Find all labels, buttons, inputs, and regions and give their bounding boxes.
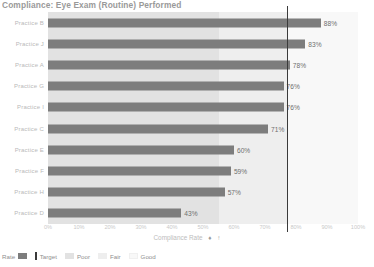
bar[interactable]: [48, 124, 268, 133]
bar-value-label: 88%: [321, 19, 337, 26]
bar[interactable]: [48, 18, 321, 27]
bar-value-label: 78%: [290, 61, 306, 68]
bar-row[interactable]: Practice I76%: [48, 97, 358, 118]
y-axis-label: Practice B: [15, 20, 44, 26]
legend-item-target[interactable]: Target: [35, 252, 57, 260]
bar[interactable]: [48, 188, 225, 197]
legend-swatch-rate: [18, 253, 27, 259]
y-axis-label: Practice G: [14, 83, 44, 89]
x-axis-title: Compliance Rate ♦ ↑: [0, 234, 374, 241]
bar[interactable]: [48, 82, 284, 91]
filter-icon[interactable]: ↑: [217, 234, 220, 241]
bar[interactable]: [48, 145, 234, 154]
bar-value-label: 71%: [268, 125, 284, 132]
y-axis-label: Practice F: [15, 168, 44, 174]
bar-value-label: 83%: [305, 40, 321, 47]
bar-row[interactable]: Practice G76%: [48, 76, 358, 97]
bar[interactable]: [48, 60, 290, 69]
target-reference-line[interactable]: [287, 6, 288, 232]
bar-value-label: 59%: [231, 167, 247, 174]
x-axis-tick: 100%: [351, 224, 365, 230]
chart-legend: RateTargetPoorFairGood: [2, 252, 160, 260]
bar[interactable]: [48, 209, 181, 218]
sort-icon[interactable]: ♦: [208, 234, 211, 241]
chart-container: Compliance: Eye Exam (Routine) Performed…: [0, 0, 374, 267]
bar-row[interactable]: Practice F59%: [48, 160, 358, 181]
legend-item-rate[interactable]: Rate: [2, 253, 27, 260]
y-axis-label: Practice J: [16, 41, 44, 47]
y-axis-label: Practice D: [14, 210, 44, 216]
y-axis-label: Practice C: [14, 126, 44, 132]
y-axis-label: Practice I: [17, 104, 44, 110]
x-axis-tick: 60%: [228, 224, 239, 230]
chart-title: Compliance: Eye Exam (Routine) Performed: [2, 0, 181, 10]
x-axis-tick: 70%: [259, 224, 270, 230]
bar-value-label: 60%: [234, 146, 250, 153]
plot-area: Practice B88%Practice J83%Practice A78%P…: [48, 12, 358, 224]
x-axis-tick: 90%: [321, 224, 332, 230]
bar-row[interactable]: Practice J83%: [48, 33, 358, 54]
legend-swatch-target: [35, 252, 37, 260]
x-axis-tick: 20%: [104, 224, 115, 230]
x-axis-tick: 40%: [166, 224, 177, 230]
y-axis-label: Practice A: [15, 62, 44, 68]
legend-label: Target: [40, 253, 57, 260]
legend-item-good[interactable]: Good: [129, 253, 156, 260]
x-axis-title-label: Compliance Rate: [153, 234, 202, 241]
x-axis-tick: 80%: [290, 224, 301, 230]
legend-swatch-fair: [98, 253, 107, 259]
bar-row[interactable]: Practice A78%: [48, 54, 358, 75]
legend-item-poor[interactable]: Poor: [65, 253, 90, 260]
bar[interactable]: [48, 166, 231, 175]
x-axis-tick: 0%: [44, 224, 52, 230]
x-axis-tick: 50%: [197, 224, 208, 230]
x-axis-tick: 10%: [73, 224, 84, 230]
bar[interactable]: [48, 103, 284, 112]
x-axis-tick: 30%: [135, 224, 146, 230]
legend-swatch-poor: [65, 253, 74, 259]
bar-value-label: 43%: [181, 210, 197, 217]
legend-label: Fair: [110, 253, 121, 260]
y-axis-label: Practice H: [14, 189, 44, 195]
bar-value-label: 57%: [225, 189, 241, 196]
legend-item-fair[interactable]: Fair: [98, 253, 121, 260]
y-axis-label: Practice E: [15, 147, 44, 153]
legend-label: Rate: [2, 253, 15, 260]
legend-swatch-good: [129, 253, 138, 259]
bar-row[interactable]: Practice C71%: [48, 118, 358, 139]
bar-row[interactable]: Practice B88%: [48, 12, 358, 33]
bar-row[interactable]: Practice D43%: [48, 203, 358, 224]
bar-row[interactable]: Practice E60%: [48, 139, 358, 160]
legend-label: Poor: [77, 253, 90, 260]
bar-row[interactable]: Practice H57%: [48, 182, 358, 203]
bar[interactable]: [48, 39, 305, 48]
legend-label: Good: [141, 253, 156, 260]
